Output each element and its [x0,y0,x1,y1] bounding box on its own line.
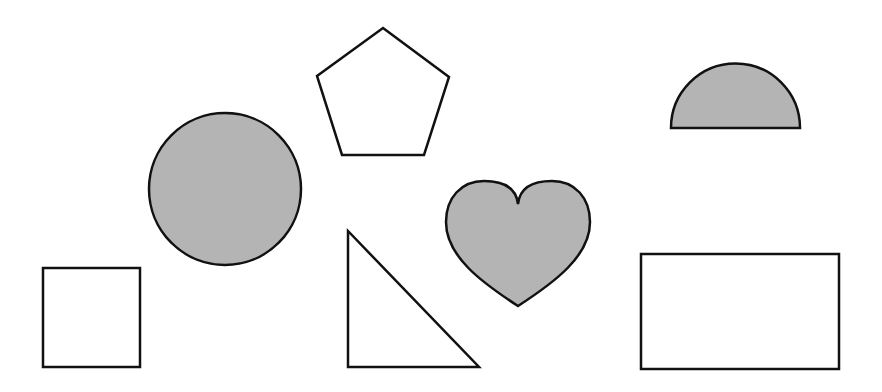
square-shape [43,268,140,367]
circle-shape [149,113,301,265]
shapes-canvas [0,0,882,392]
rectangle-shape [641,254,839,369]
